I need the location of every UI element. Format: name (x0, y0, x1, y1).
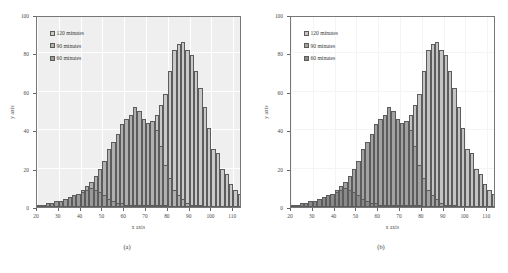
y-tick-mark (287, 170, 290, 171)
x-tick-label: 50 (353, 213, 358, 219)
panel-b: 2030405060708090100110020406080100 x axi… (254, 0, 508, 273)
y-tick-mark (33, 93, 36, 94)
y-tick-label: 60 (278, 90, 283, 96)
x-tick-label: 80 (164, 213, 169, 219)
x-tick-mark (101, 208, 102, 211)
plot-area-b: 2030405060708090100110020406080100 x axi… (290, 16, 495, 208)
y-tick-mark (33, 170, 36, 171)
x-tick-label: 60 (121, 213, 126, 219)
y-tick-label: 100 (275, 13, 283, 19)
x-tick-label: 20 (33, 213, 38, 219)
y-tick-mark (33, 131, 36, 132)
y-tick-mark (287, 208, 290, 209)
histogram-bar (238, 194, 241, 207)
x-tick-mark (399, 208, 400, 211)
legend-swatch-icon (304, 43, 309, 48)
x-tick-label: 90 (186, 213, 191, 219)
histogram-bar (492, 194, 495, 207)
x-tick-label: 110 (228, 213, 236, 219)
plot-area-a: 2030405060708090100110020406080100 x axi… (36, 16, 241, 208)
x-tick-mark (290, 208, 291, 211)
y-tick-label: 100 (21, 13, 29, 19)
histogram-bar (163, 205, 167, 207)
x-axis-title-b: x axis (290, 224, 495, 230)
x-tick-label: 20 (287, 213, 292, 219)
legend-swatch-icon (304, 31, 309, 36)
x-tick-label: 30 (309, 213, 314, 219)
y-tick-mark (287, 131, 290, 132)
x-tick-mark (443, 208, 444, 211)
x-tick-mark (189, 208, 190, 211)
y-tick-label: 20 (278, 167, 283, 173)
legend-label: 120 minutes (311, 30, 339, 36)
y-tick-mark (33, 16, 36, 17)
y-tick-label: 0 (280, 205, 283, 211)
legend-item: 60 minutes (304, 55, 338, 61)
y-tick-label: 0 (26, 205, 29, 211)
legend-swatch-icon (50, 56, 55, 61)
y-axis-title-b: y axis (263, 105, 269, 118)
legend-label: 120 minutes (57, 30, 85, 36)
legend-swatch-icon (50, 31, 55, 36)
y-tick-label: 40 (278, 128, 283, 134)
histogram-bar (417, 205, 421, 207)
y-tick-mark (33, 208, 36, 209)
legend-label: 90 minutes (311, 43, 336, 49)
x-tick-mark (355, 208, 356, 211)
x-tick-mark (464, 208, 465, 211)
x-tick-label: 30 (55, 213, 60, 219)
x-tick-mark (145, 208, 146, 211)
legend-label: 90 minutes (57, 43, 82, 49)
x-tick-mark (486, 208, 487, 211)
x-tick-label: 90 (440, 213, 445, 219)
x-tick-mark (36, 208, 37, 211)
x-tick-label: 100 (206, 213, 214, 219)
y-tick-mark (287, 93, 290, 94)
legend-a: 120 minutes90 minutes60 minutes (50, 30, 84, 61)
y-tick-mark (287, 54, 290, 55)
x-tick-mark (210, 208, 211, 211)
x-tick-mark (80, 208, 81, 211)
caption-a: (a) (0, 243, 254, 250)
x-axis-title-a: x axis (36, 224, 241, 230)
caption-b: (b) (254, 243, 508, 250)
x-tick-mark (123, 208, 124, 211)
x-tick-mark (421, 208, 422, 211)
x-tick-mark (58, 208, 59, 211)
legend-label: 60 minutes (311, 55, 336, 61)
legend-swatch-icon (50, 43, 55, 48)
legend-b: 120 minutes90 minutes60 minutes (304, 30, 338, 61)
histogram-bar (452, 205, 456, 207)
figure-two-panel-histograms: 2030405060708090100110020406080100 x axi… (0, 0, 508, 273)
x-tick-label: 60 (375, 213, 380, 219)
x-tick-mark (377, 208, 378, 211)
x-tick-label: 70 (142, 213, 147, 219)
y-tick-label: 80 (24, 51, 29, 57)
x-tick-label: 100 (460, 213, 468, 219)
legend-item: 90 minutes (50, 43, 84, 49)
y-axis-title-a: y axis (9, 105, 15, 118)
x-tick-label: 50 (99, 213, 104, 219)
legend-label: 60 minutes (57, 55, 82, 61)
y-tick-mark (33, 54, 36, 55)
y-tick-label: 40 (24, 128, 29, 134)
x-tick-label: 70 (396, 213, 401, 219)
legend-swatch-icon (304, 56, 309, 61)
x-tick-mark (334, 208, 335, 211)
x-tick-label: 110 (482, 213, 490, 219)
x-tick-label: 40 (331, 213, 336, 219)
x-tick-mark (167, 208, 168, 211)
panel-a: 2030405060708090100110020406080100 x axi… (0, 0, 254, 273)
x-tick-label: 80 (418, 213, 423, 219)
y-tick-label: 80 (278, 51, 283, 57)
legend-item: 120 minutes (304, 30, 338, 36)
histogram-bar (198, 205, 202, 207)
y-tick-label: 20 (24, 167, 29, 173)
legend-item: 90 minutes (304, 43, 338, 49)
y-tick-mark (287, 16, 290, 17)
legend-item: 60 minutes (50, 55, 84, 61)
x-tick-mark (312, 208, 313, 211)
legend-item: 120 minutes (50, 30, 84, 36)
x-tick-label: 40 (77, 213, 82, 219)
x-tick-mark (232, 208, 233, 211)
